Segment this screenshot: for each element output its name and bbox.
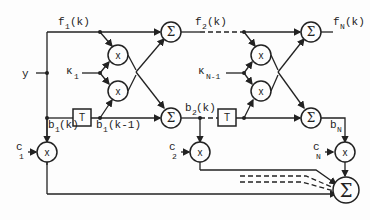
b1k-label: b xyxy=(48,119,55,131)
multiply-symbol: x xyxy=(343,147,348,158)
kappa1-sub: 1 xyxy=(74,72,79,81)
multiply-symbol: x xyxy=(198,147,203,158)
b1k1-label: b xyxy=(96,119,103,131)
cross-to-lower-sum xyxy=(278,72,304,108)
kappaN1-sub: N-1 xyxy=(206,72,221,81)
sum-symbol: Σ xyxy=(307,25,315,39)
dashed-input xyxy=(240,182,334,191)
multiply-symbol: x xyxy=(259,50,264,61)
lattice-filter-diagram: x x Σ T Σ x x T x x xyxy=(0,0,370,220)
b1k-arg: (k) xyxy=(59,119,79,131)
input-label: y xyxy=(22,68,29,80)
f2-label: f xyxy=(195,16,202,28)
multiply-symbol: x xyxy=(259,86,264,97)
kappaN1-label: κ xyxy=(198,65,205,77)
kappa1-to-upper xyxy=(100,62,109,73)
delay-symbol: T xyxy=(79,112,85,123)
f2-arg: (k) xyxy=(207,16,227,28)
dashed-input xyxy=(240,176,334,188)
bN-to-mult xyxy=(244,100,253,118)
cross-line xyxy=(271,55,278,70)
bN-sub: N xyxy=(337,125,342,134)
kappaN-to-lower xyxy=(244,73,252,84)
cross-to-upper-sum xyxy=(278,39,304,72)
b2k-arg: (k) xyxy=(196,102,216,114)
kappa1-to-lower xyxy=(100,73,109,84)
f1-arg: (k) xyxy=(70,16,90,28)
b2k-label: b xyxy=(185,102,192,114)
fN-to-mult xyxy=(244,32,255,46)
sum-symbol: Σ xyxy=(340,180,353,201)
kappaN-to-upper xyxy=(244,62,252,73)
kappa1-label: κ xyxy=(66,65,73,77)
cross-line xyxy=(271,75,278,91)
cross-line xyxy=(128,55,136,70)
cross-to-lower-sum xyxy=(136,72,164,108)
cross-to-upper-sum xyxy=(136,39,164,72)
f1-to-mult xyxy=(100,32,112,46)
sum-symbol: Σ xyxy=(307,111,315,125)
diagram-svg: x x Σ T Σ x x T x x xyxy=(0,0,370,220)
b1-to-mult xyxy=(100,100,112,118)
junction-dot xyxy=(45,71,49,75)
sum-symbol: Σ xyxy=(167,25,175,39)
fN-arg: (k) xyxy=(345,16,365,28)
multiply-symbol: x xyxy=(116,86,121,97)
b1k1-arg: (k-1) xyxy=(108,119,141,131)
sum-symbol: Σ xyxy=(167,111,175,125)
cN-sub: N xyxy=(316,152,321,161)
cross-line xyxy=(128,75,136,91)
multiply-symbol: x xyxy=(116,50,121,61)
c2-sub: 2 xyxy=(172,152,177,161)
f1-label: f xyxy=(58,16,65,28)
fN-label: f xyxy=(333,16,340,28)
bN-label: b xyxy=(330,119,337,131)
c1-sub: 1 xyxy=(19,152,24,161)
delay-symbol: T xyxy=(224,112,230,123)
multiply-symbol: x xyxy=(45,147,50,158)
